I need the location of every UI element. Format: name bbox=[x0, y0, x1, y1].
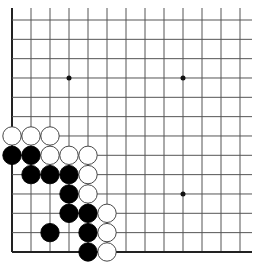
white-stone[interactable] bbox=[79, 146, 97, 164]
white-stone[interactable] bbox=[98, 243, 116, 261]
black-stone[interactable] bbox=[41, 165, 59, 183]
go-board[interactable] bbox=[0, 0, 256, 265]
white-stone[interactable] bbox=[60, 146, 78, 164]
black-stone[interactable] bbox=[60, 165, 78, 183]
white-stone[interactable] bbox=[79, 165, 97, 183]
white-stone[interactable] bbox=[41, 146, 59, 164]
white-stone[interactable] bbox=[98, 223, 116, 241]
star-point-icon bbox=[181, 191, 186, 196]
black-stone[interactable] bbox=[79, 243, 97, 261]
white-stone[interactable] bbox=[98, 204, 116, 222]
white-stone[interactable] bbox=[41, 127, 59, 145]
black-stone[interactable] bbox=[22, 146, 40, 164]
black-stone[interactable] bbox=[60, 204, 78, 222]
black-stone[interactable] bbox=[41, 223, 59, 241]
white-stone[interactable] bbox=[79, 185, 97, 203]
star-point-icon bbox=[181, 75, 186, 80]
white-stone[interactable] bbox=[3, 127, 21, 145]
star-point-icon bbox=[67, 75, 72, 80]
black-stone[interactable] bbox=[60, 185, 78, 203]
white-stone[interactable] bbox=[22, 127, 40, 145]
black-stone[interactable] bbox=[3, 146, 21, 164]
black-stone[interactable] bbox=[22, 165, 40, 183]
black-stone[interactable] bbox=[79, 223, 97, 241]
black-stone[interactable] bbox=[79, 204, 97, 222]
